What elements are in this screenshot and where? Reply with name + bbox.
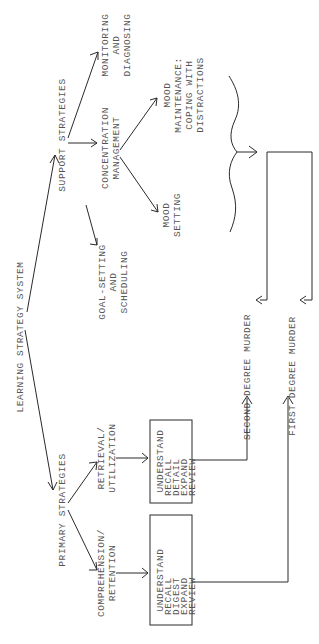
svg-text:SCHEDULING: SCHEDULING (119, 250, 130, 313)
svg-text:COPING WITH: COPING WITH (184, 60, 195, 129)
svg-text:MOOD: MOOD (161, 202, 172, 227)
root-label: LEARNING STRATEGY SYSTEM (15, 261, 26, 412)
mood-setting-node: MOOD SETTING (161, 193, 183, 237)
connector-comprehension-box-first (192, 398, 288, 582)
connector-concentration-maintenance (120, 98, 157, 150)
svg-text:RETRIEVAL/: RETRIEVAL/ (96, 426, 107, 489)
svg-text:GOAL-SETTING: GOAL-SETTING (97, 244, 108, 320)
svg-text:MOOD: MOOD (162, 82, 173, 107)
svg-text:AND: AND (111, 36, 122, 55)
svg-text:REVIEW: REVIEW (187, 458, 198, 496)
first-degree-murder-label: FIRST DEGREE MURDER (287, 316, 298, 436)
concentration-node: CONCENTRATION MANAGEMENT (100, 107, 122, 189)
svg-text:DIAGNOSING: DIAGNOSING (122, 13, 133, 76)
goal-setting-node: GOAL-SETTING AND SCHEDULING (97, 244, 130, 320)
connector-to-first-degree (267, 152, 312, 300)
svg-text:REVIEW: REVIEW (187, 577, 198, 615)
retrieval-node: RETRIEVAL/ UTILIZATION (96, 423, 118, 492)
mood-maintenance-node: MOOD MAINTENANCE: COPING WITH DISTRACTIO… (162, 57, 206, 133)
wavy-boundary (229, 76, 239, 232)
svg-text:MAINTENANCE:: MAINTENANCE: (173, 57, 184, 133)
connector-root-primary (25, 330, 53, 490)
connector-to-second-degree (260, 152, 267, 300)
connector-support-goal (86, 205, 97, 245)
connector-retrieval-box-second (192, 398, 247, 460)
support-strategies-label: SUPPORT STRATEGIES (57, 78, 68, 191)
comprehension-node: COMPREHENSION/ RETENTION (96, 529, 118, 617)
monitoring-node: MONITORING AND DIAGNOSING (100, 13, 133, 76)
connector-support-monitoring (68, 52, 98, 138)
svg-text:CONCENTRATION: CONCENTRATION (100, 107, 111, 189)
svg-text:MANAGEMENT: MANAGEMENT (111, 116, 122, 179)
svg-text:AND: AND (108, 273, 119, 292)
connector-primary-retrieval (68, 462, 97, 503)
connector-concentration-setting (120, 157, 158, 212)
learning-strategy-diagram: LEARNING STRATEGY SYSTEM SUPPORT STRATEG… (0, 0, 319, 644)
primary-strategies-label: PRIMARY STRATEGIES (57, 453, 68, 566)
svg-text:DISTRACTIONS: DISTRACTIONS (195, 57, 206, 133)
svg-text:MONITORING: MONITORING (100, 13, 111, 76)
svg-text:COMPREHENSION/: COMPREHENSION/ (96, 529, 107, 617)
connector-primary-comprehension (68, 510, 97, 570)
svg-text:SETTING: SETTING (172, 193, 183, 237)
connector-root-support (27, 155, 55, 312)
